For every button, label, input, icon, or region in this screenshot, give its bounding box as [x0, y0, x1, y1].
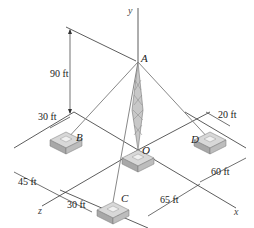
x-axis	[74, 112, 236, 208]
dim-30-c-label: 30 ft	[67, 199, 86, 210]
point-D-label: D	[190, 133, 199, 145]
cable-AD	[138, 62, 210, 140]
dim-30-b-label: 30 ft	[38, 111, 57, 122]
tower	[132, 62, 143, 150]
cable-AC	[113, 62, 138, 202]
y-axis-label: y	[127, 5, 133, 16]
dim-65-label: 65 ft	[160, 194, 179, 205]
dim-45-label: 45 ft	[18, 176, 37, 187]
dim-60-label: 60 ft	[211, 166, 230, 177]
point-A-label: A	[140, 52, 148, 64]
reference-line	[66, 27, 136, 61]
z-axis-label: z	[37, 205, 42, 216]
footing-C	[97, 202, 129, 224]
point-C-label: C	[121, 192, 129, 204]
dim-20-label: 20 ft	[218, 109, 237, 120]
point-O-label: O	[142, 144, 150, 156]
dim-90-label: 90 ft	[50, 68, 69, 79]
tower-cable-diagram: y x z A B	[0, 0, 254, 228]
point-B-label: B	[76, 131, 83, 143]
x-axis-label: x	[233, 206, 239, 217]
